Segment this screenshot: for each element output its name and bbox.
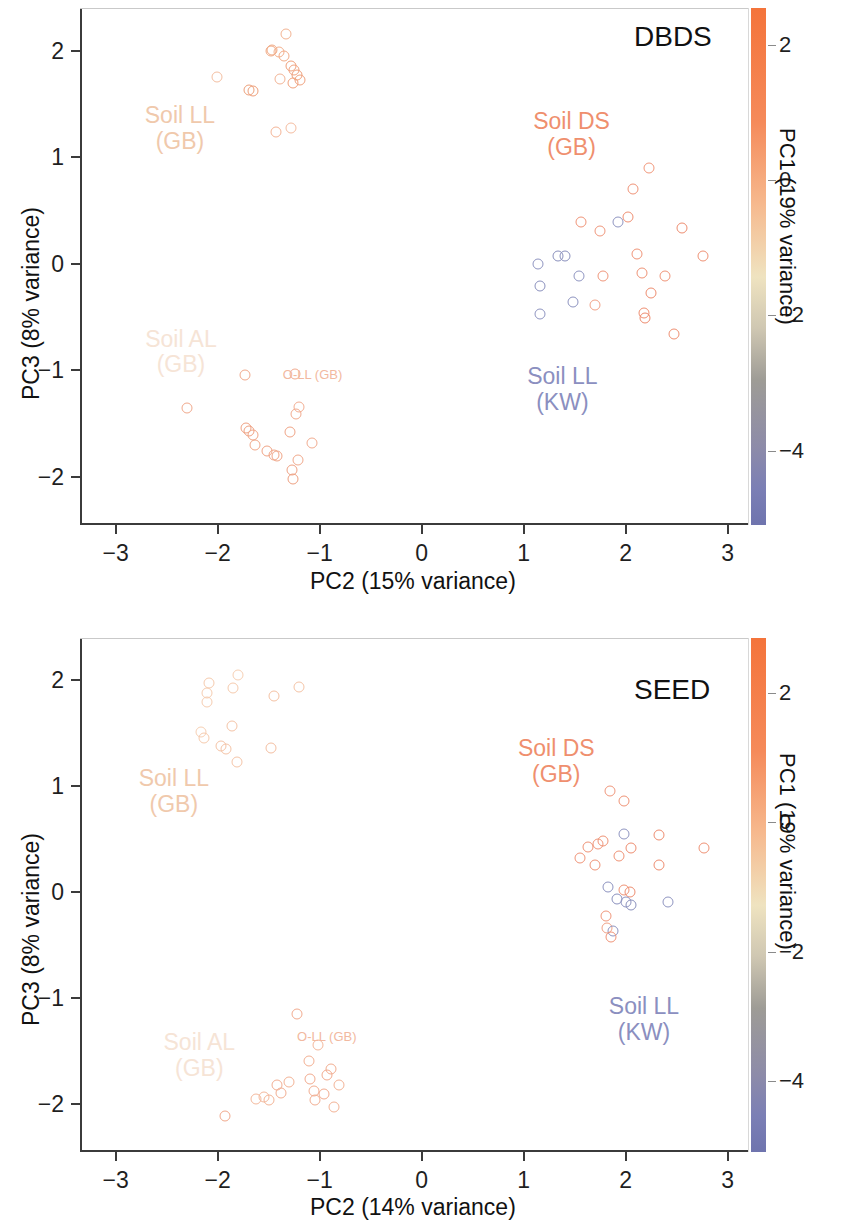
x-tick-label: −3 xyxy=(103,1167,129,1194)
x-tick-label: 2 xyxy=(619,1167,632,1194)
y-tick-label: 2 xyxy=(22,37,64,64)
x-axis-title-dbds: PC2 (15% variance) xyxy=(310,568,516,595)
panel-dbds: −3−2−10123−2−1012Soil LL(GB)Soil AL(GB)S… xyxy=(0,0,844,611)
y-tick xyxy=(71,997,80,999)
x-tick-label: −1 xyxy=(307,540,333,567)
group-label: Soil DS(GB) xyxy=(518,736,595,788)
x-tick xyxy=(625,525,627,534)
x-tick-label: −3 xyxy=(103,540,129,567)
group-label: Soil AL(GB) xyxy=(145,327,217,379)
y-tick xyxy=(71,891,80,893)
colorbar-seed xyxy=(751,638,766,1152)
colorbar-tick-label: −4 xyxy=(779,438,804,464)
colorbar-tick xyxy=(768,451,776,452)
x-tick-label: 1 xyxy=(517,1167,530,1194)
y-tick-label: 2 xyxy=(22,667,64,694)
y-tick xyxy=(71,50,80,52)
y-tick xyxy=(71,785,80,787)
x-tick-label: 0 xyxy=(415,540,428,567)
group-label: Soil AL(GB) xyxy=(164,1030,236,1082)
x-tick xyxy=(319,1152,321,1161)
colorbar-tick xyxy=(768,45,776,46)
x-tick xyxy=(421,1152,423,1161)
panel-seed: −3−2−10123−2−1012Soil LL(GB)Soil AL(GB)S… xyxy=(0,611,844,1222)
x-axis-title-seed: PC2 (14% variance) xyxy=(310,1194,516,1221)
panel-title-seed: SEED xyxy=(634,674,710,706)
x-tick-label: −2 xyxy=(205,1167,231,1194)
x-tick xyxy=(523,1152,525,1161)
colorbar-tick xyxy=(768,693,776,694)
x-tick xyxy=(217,1152,219,1161)
colorbar-tick xyxy=(768,952,776,953)
group-label: Soil LL(KW) xyxy=(609,994,679,1046)
x-tick xyxy=(115,525,117,534)
y-axis-title-dbds: PC3 (8% variance) xyxy=(18,207,45,400)
x-tick-label: −2 xyxy=(205,540,231,567)
y-tick xyxy=(71,679,80,681)
x-tick xyxy=(217,525,219,534)
y-tick-label: −2 xyxy=(22,1091,64,1118)
group-label: Soil DS(GB) xyxy=(533,109,610,161)
y-axis-title-seed: PC3 (8% variance) xyxy=(18,833,45,1026)
group-label: O-LL (GB) xyxy=(283,366,342,381)
colorbar-tick-label: −4 xyxy=(779,1068,804,1094)
colorbar-dbds xyxy=(751,8,766,525)
x-tick xyxy=(421,525,423,534)
x-tick xyxy=(727,1152,729,1161)
y-tick-label: 1 xyxy=(22,144,64,171)
x-tick xyxy=(115,1152,117,1161)
group-label: Soil LL(KW) xyxy=(527,364,597,416)
y-tick xyxy=(71,369,80,371)
group-label: O-LL (GB) xyxy=(297,1029,356,1044)
colorbar-tick xyxy=(768,1081,776,1082)
axes-decoration-seed: −3−2−10123−2−1012Soil LL(GB)Soil AL(GB)S… xyxy=(0,611,844,1222)
y-tick xyxy=(71,476,80,478)
x-tick-label: 2 xyxy=(619,540,632,567)
x-tick-label: 3 xyxy=(721,1167,734,1194)
x-tick-label: −1 xyxy=(307,1167,333,1194)
y-tick-label: −2 xyxy=(22,464,64,491)
x-tick xyxy=(727,525,729,534)
colorbar-tick-label: 2 xyxy=(779,32,791,58)
group-label: Soil LL(GB) xyxy=(145,103,215,155)
x-tick xyxy=(319,525,321,534)
colorbar-tick-label: 2 xyxy=(779,680,791,706)
x-tick xyxy=(625,1152,627,1161)
y-tick xyxy=(71,1103,80,1105)
y-tick xyxy=(71,156,80,158)
y-tick xyxy=(71,263,80,265)
colorbar-title-dbds: PC1 (19% variance) xyxy=(774,128,800,325)
y-tick-label: 1 xyxy=(22,773,64,800)
axes-decoration-dbds: −3−2−10123−2−1012Soil LL(GB)Soil AL(GB)S… xyxy=(0,0,844,611)
colorbar-title-seed: PC1 (19% variance) xyxy=(774,753,800,950)
x-tick-label: 3 xyxy=(721,540,734,567)
panel-title-dbds: DBDS xyxy=(634,21,712,53)
x-tick-label: 1 xyxy=(517,540,530,567)
group-label: Soil LL(GB) xyxy=(139,766,209,818)
x-tick-label: 0 xyxy=(415,1167,428,1194)
x-tick xyxy=(523,525,525,534)
